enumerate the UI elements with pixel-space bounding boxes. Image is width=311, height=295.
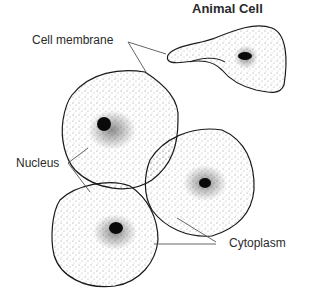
- cell-lower-left: [52, 183, 158, 287]
- nucleus-upper-left: [97, 117, 111, 131]
- label-cytoplasm: Cytoplasm: [229, 236, 286, 250]
- cell-elongated: [167, 26, 286, 93]
- nucleus-elongated: [238, 52, 252, 60]
- label-cell-membrane: Cell membrane: [32, 33, 113, 47]
- diagram-title: Animal Cell: [192, 1, 263, 16]
- nucleus-middle-right: [199, 178, 211, 188]
- nucleus-lower-left: [109, 222, 123, 234]
- label-nucleus: Nucleus: [16, 156, 59, 170]
